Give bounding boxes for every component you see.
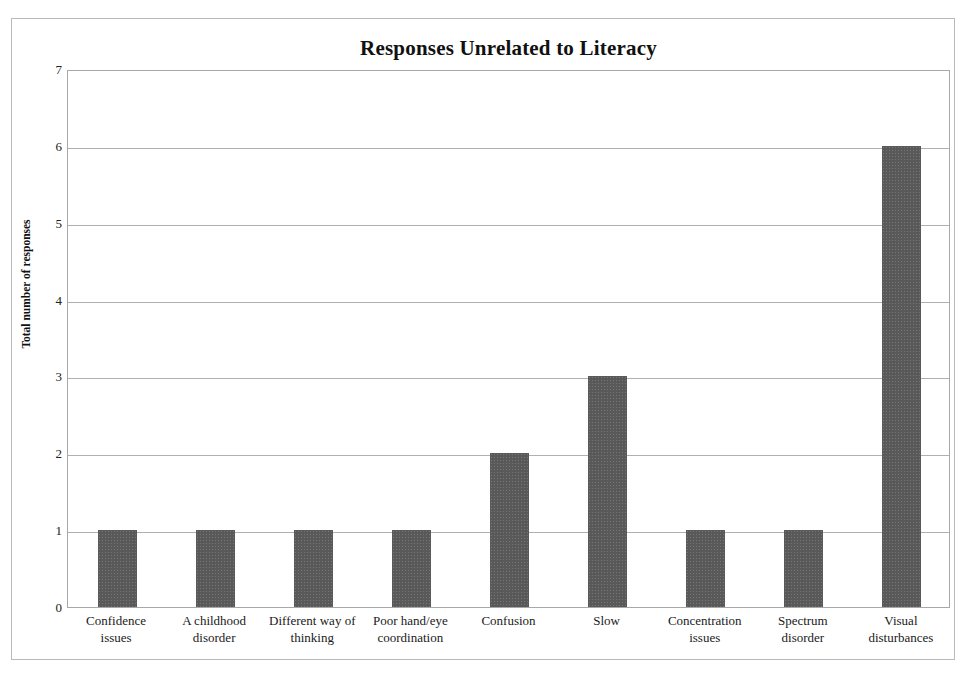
bar — [686, 530, 725, 607]
bars-group — [68, 71, 949, 607]
x-tick-label: Spectrum disorder — [756, 612, 850, 646]
bar — [588, 376, 627, 607]
bar — [392, 530, 431, 607]
y-tick-label: 1 — [24, 523, 62, 539]
bar — [882, 146, 921, 607]
chart-page: Responses Unrelated to Literacy Total nu… — [0, 0, 966, 681]
x-tick-label: A childhood disorder — [167, 612, 261, 646]
y-tick-label: 5 — [24, 216, 62, 232]
bar — [98, 530, 137, 607]
y-tick-label: 4 — [24, 293, 62, 309]
chart-title: Responses Unrelated to Literacy — [67, 36, 950, 61]
y-tick-label: 2 — [24, 446, 62, 462]
x-tick-label: Visual disturbances — [854, 612, 948, 646]
x-tick-label: Confidence issues — [69, 612, 163, 646]
y-tick-label: 0 — [24, 600, 62, 616]
bar — [784, 530, 823, 607]
y-tick-label: 6 — [24, 139, 62, 155]
bar — [490, 453, 529, 607]
y-tick-label: 7 — [24, 62, 62, 78]
x-tick-label: Different way of thinking — [265, 612, 359, 646]
plot-area — [67, 70, 950, 608]
x-tick-label: Concentration issues — [658, 612, 752, 646]
bar — [196, 530, 235, 607]
x-axis-tick-labels: Confidence issuesA childhood disorderDif… — [67, 612, 950, 658]
x-tick-label: Poor hand/eye coordination — [363, 612, 457, 646]
x-tick-label: Slow — [560, 612, 654, 629]
y-axis-tick-labels: 01234567 — [16, 70, 62, 608]
bar — [294, 530, 333, 607]
y-tick-label: 3 — [24, 369, 62, 385]
x-tick-label: Confusion — [461, 612, 555, 629]
